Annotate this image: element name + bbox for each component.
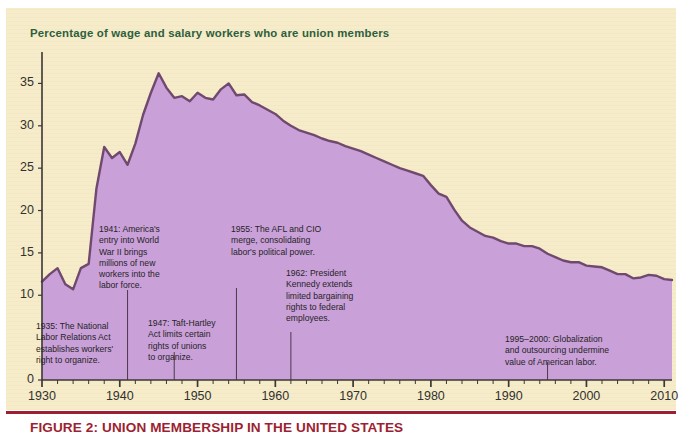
union-membership-area-chart	[0, 0, 694, 446]
x-axis-tick-label: 1960	[245, 389, 305, 403]
figure-container: Percentage of wage and salary workers wh…	[0, 0, 694, 446]
chart-annotation: 1941: America'sentry into WorldWar II br…	[99, 224, 177, 292]
y-axis-tick-label: 25	[4, 160, 34, 174]
chart-annotation-line: War II brings	[99, 247, 177, 258]
chart-annotation: 1955: The AFL and CIOmerge, consolidatin…	[231, 224, 343, 258]
x-axis-tick-label: 1950	[168, 389, 228, 403]
chart-annotation-line: and outsourcing undermine	[505, 345, 643, 356]
chart-annotation-line: 1995–2000: Globalization	[505, 334, 643, 345]
chart-annotation-line: Act limits certain	[148, 329, 230, 340]
chart-annotation-line: Kennedy extends	[286, 279, 366, 290]
chart-annotation-line: workers into the	[99, 269, 177, 280]
chart-annotation-line: rights of unions	[148, 341, 230, 352]
y-axis-tick-label: 15	[4, 245, 34, 259]
chart-annotation-line: right to organize.	[36, 355, 140, 366]
y-axis-tick-label: 30	[4, 118, 34, 132]
chart-annotation: 1962: PresidentKennedy extendslimited ba…	[286, 268, 366, 324]
x-axis-tick-label: 1970	[323, 389, 383, 403]
caption-divider-rule	[6, 411, 676, 414]
x-axis-tick-label: 2010	[634, 389, 694, 403]
y-axis-tick-label: 20	[4, 203, 34, 217]
chart-annotation-line: 1962: President	[286, 268, 366, 279]
chart-annotation-line: 1955: The AFL and CIO	[231, 224, 343, 235]
x-axis-tick-label: 1940	[90, 389, 150, 403]
chart-annotation-line: to organize.	[148, 352, 230, 363]
chart-annotation-line: millions of new	[99, 258, 177, 269]
chart-annotation-line: rights to federal	[286, 302, 366, 313]
figure-caption: FIGURE 2: UNION MEMBERSHIP IN THE UNITED…	[30, 420, 403, 435]
chart-annotation-line: employees.	[286, 313, 366, 324]
chart-annotation-line: labor's political power.	[231, 247, 343, 258]
y-axis-tick-label: 10	[4, 287, 34, 301]
x-axis-tick-label: 1980	[401, 389, 461, 403]
chart-annotation-line: value of American labor.	[505, 357, 643, 368]
y-axis-tick-label: 35	[4, 75, 34, 89]
chart-annotation: 1935: The NationalLabor Relations Actest…	[36, 321, 140, 366]
chart-annotation-line: 1935: The National	[36, 321, 140, 332]
chart-annotation-line: labor force.	[99, 280, 177, 291]
chart-annotation-line: entry into World	[99, 235, 177, 246]
chart-annotation-line: Labor Relations Act	[36, 332, 140, 343]
chart-annotation-line: 1941: America's	[99, 224, 177, 235]
chart-annotation: 1995–2000: Globalizationand outsourcing …	[505, 334, 643, 368]
chart-annotation-line: merge, consolidating	[231, 235, 343, 246]
chart-annotation-line: limited bargaining	[286, 291, 366, 302]
y-axis-tick-label: 0	[4, 372, 34, 386]
x-axis-tick-label: 2000	[556, 389, 616, 403]
x-axis-tick-label: 1930	[12, 389, 72, 403]
chart-annotation-line: 1947: Taft-Hartley	[148, 318, 230, 329]
chart-annotation-line: establishes workers'	[36, 344, 140, 355]
chart-annotation: 1947: Taft-HartleyAct limits certainrigh…	[148, 318, 230, 363]
x-axis-tick-label: 1990	[479, 389, 539, 403]
